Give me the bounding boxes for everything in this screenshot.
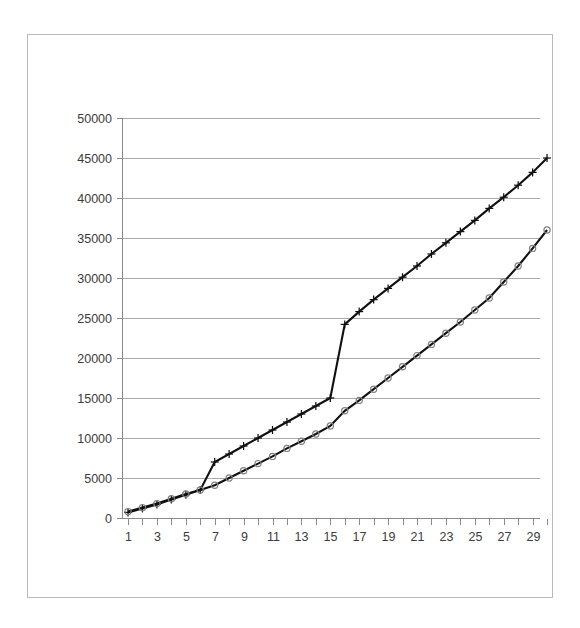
y-axis-tick-label: 35000 (77, 232, 112, 246)
x-axis-tick-label: 7 (212, 530, 219, 544)
chart-page: 0500010000150002000025000300003500040000… (0, 0, 580, 628)
data-point-marker (297, 410, 305, 418)
series-plus (124, 154, 551, 516)
y-axis-tick-label: 5000 (84, 472, 112, 486)
data-point-marker (254, 434, 262, 442)
data-point-marker (225, 450, 233, 458)
x-axis-tick-label: 5 (183, 530, 190, 544)
x-axis-tick-label: 27 (498, 530, 512, 544)
y-axis-tick-labels: 0500010000150002000025000300003500040000… (77, 112, 112, 526)
x-axis-tick-label: 29 (527, 530, 541, 544)
series-circle (125, 227, 550, 515)
x-axis-tick-label: 21 (411, 530, 425, 544)
chart-canvas: 0500010000150002000025000300003500040000… (0, 0, 580, 628)
x-axis-tick-label: 17 (353, 530, 367, 544)
data-point-marker (211, 458, 219, 466)
x-axis-tick-label: 13 (295, 530, 309, 544)
series-line (128, 230, 547, 512)
y-axis-tick-label: 40000 (77, 192, 112, 206)
y-axis-tick-label: 20000 (77, 352, 112, 366)
x-axis-tick-label: 15 (324, 530, 338, 544)
data-point-marker (544, 227, 550, 233)
data-point-marker (240, 442, 248, 450)
x-axis-tick-label: 23 (440, 530, 454, 544)
data-point-marker (283, 418, 291, 426)
x-axis-tick-labels: 1357911131517192123252729 (125, 530, 540, 544)
x-axis-tick-label: 11 (267, 530, 280, 544)
y-axis-tick-label: 30000 (77, 272, 112, 286)
data-point-marker (269, 426, 277, 434)
x-axis-tick-label: 19 (382, 530, 396, 544)
line-chart: 0500010000150002000025000300003500040000… (0, 0, 580, 628)
x-axis-tick-label: 25 (469, 530, 483, 544)
x-axis-tick-label: 3 (154, 530, 161, 544)
y-axis-tick-label: 15000 (77, 392, 112, 406)
axes-group (117, 118, 548, 525)
x-axis-tick-label: 1 (125, 530, 132, 544)
data-point-marker (326, 394, 334, 402)
y-axis-tick-label: 25000 (77, 312, 112, 326)
y-axis-tick-label: 50000 (77, 112, 112, 126)
series-line (128, 158, 547, 512)
data-point-marker (312, 402, 320, 410)
y-axis-tick-label: 45000 (77, 152, 112, 166)
y-axis-tick-label: 10000 (77, 432, 112, 446)
y-axis-tick-label: 0 (105, 512, 112, 526)
x-axis-tick-label: 9 (241, 530, 248, 544)
data-series-group (124, 154, 551, 516)
